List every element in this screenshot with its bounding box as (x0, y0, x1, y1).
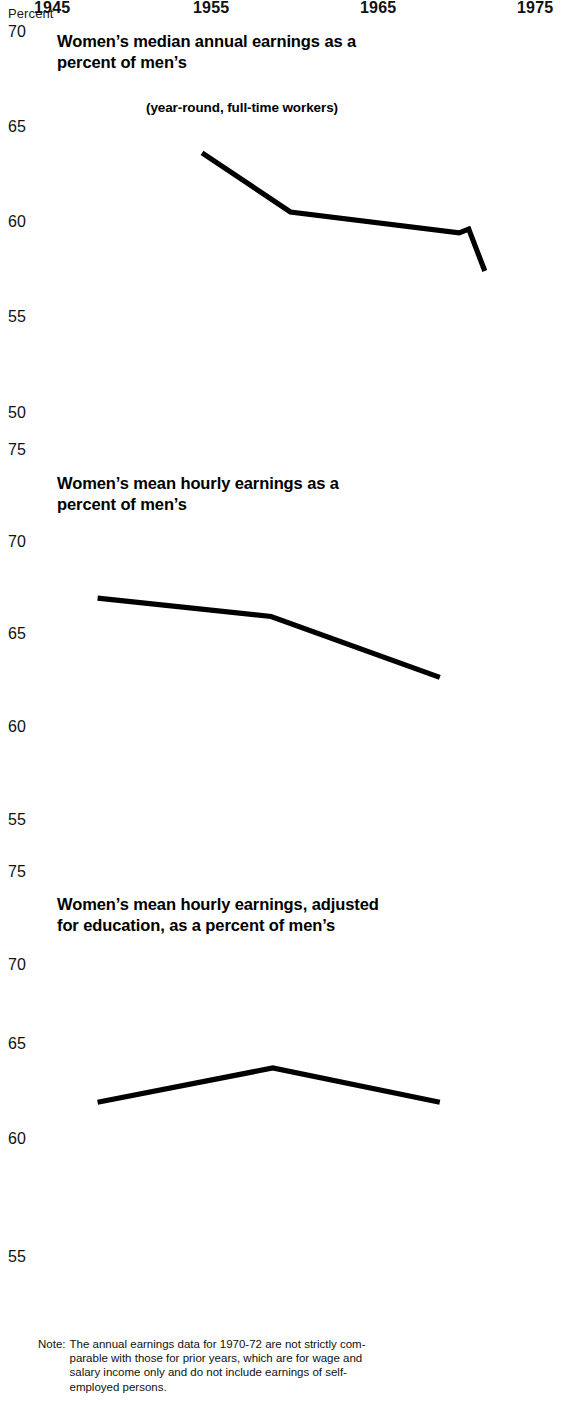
panel-2-ytick-60: 60 (8, 719, 26, 735)
panel-1-title-line-1: Women’s median annual earnings as a (57, 31, 356, 52)
panel-2-title-line-1: Women’s mean hourly earnings as a (57, 473, 339, 494)
note-line-2: parable with those for prior years, whic… (70, 1351, 366, 1365)
chart-page: Percent 70 65 60 55 50 Women’s median an… (0, 0, 565, 1410)
panel-3-ytick-65: 65 (8, 1036, 26, 1052)
panel-3-ytick-55: 55 (8, 1249, 26, 1265)
xtick-1975: 1975 (517, 0, 553, 16)
panel-2-ytick-65: 65 (8, 626, 26, 642)
panel-3-ytick-75: 75 (8, 864, 26, 880)
panel-1-ytick-55: 55 (8, 309, 26, 325)
note-line-4: employed persons. (70, 1380, 366, 1394)
series-line-mean-hourly (98, 598, 440, 677)
panel-1-ytick-70: 70 (8, 24, 26, 40)
note-line-1: The annual earnings data for 1970-72 are… (70, 1337, 366, 1351)
note-label: Note: (38, 1337, 66, 1351)
xtick-1945: 1945 (34, 0, 70, 16)
panel-2-title-line-2: percent of men’s (57, 494, 187, 515)
panel-1-ytick-60: 60 (8, 214, 26, 230)
panel-2-ytick-75: 75 (8, 442, 26, 458)
panel-1-title-line-2: percent of men’s (57, 52, 187, 73)
panel-1-ytick-65: 65 (8, 119, 26, 135)
panel-2-ytick-55: 55 (8, 812, 26, 828)
plot-lines-layer (0, 0, 565, 1410)
panel-3-ytick-60: 60 (8, 1131, 26, 1147)
panel-3-ytick-70: 70 (8, 957, 26, 973)
panel-3-title-line-1: Women’s mean hourly earnings, adjusted (57, 894, 379, 915)
panel-1-ytick-50: 50 (8, 405, 26, 421)
series-line-mean-hourly-adjusted (98, 1068, 440, 1102)
xtick-1965: 1965 (360, 0, 396, 16)
note-block: Note: The annual earnings data for 1970-… (38, 1337, 458, 1394)
note-line-3: salary income only and do not include ea… (70, 1365, 366, 1379)
panel-2-ytick-70: 70 (8, 534, 26, 550)
xtick-1955: 1955 (193, 0, 229, 16)
panel-1-subtitle: (year-round, full-time workers) (146, 99, 338, 116)
series-line-median-annual (202, 153, 485, 271)
panel-3-title-line-2: for education, as a percent of men’s (57, 915, 335, 936)
